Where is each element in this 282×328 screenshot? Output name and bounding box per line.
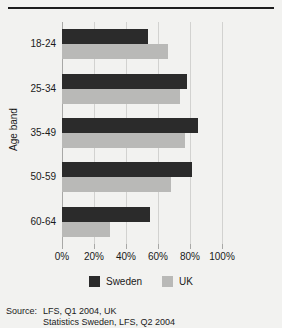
tick-40% <box>126 244 127 249</box>
plot-area: 0%20%40%60%80%100% <box>62 22 222 244</box>
legend-swatch-icon <box>89 276 100 287</box>
x-tick-label: 100% <box>202 251 242 262</box>
chart-legend: SwedenUK <box>0 276 282 287</box>
tick-60% <box>158 244 159 249</box>
bar-group <box>62 207 222 237</box>
source-note: Source: LFS, Q1 2004, UKStatistics Swede… <box>6 306 175 328</box>
bar <box>62 162 192 177</box>
tick-80% <box>190 244 191 249</box>
source-line: LFS, Q1 2004, UK <box>43 306 175 317</box>
y-tick-label: 18-24 <box>6 38 56 49</box>
bar <box>62 118 198 133</box>
tick-20% <box>94 244 95 249</box>
bar <box>62 29 148 44</box>
legend-item: Sweden <box>89 276 142 287</box>
tick-0% <box>62 244 63 249</box>
source-line: Statistics Sweden, LFS, Q2 2004 <box>43 317 175 328</box>
bar <box>62 133 185 148</box>
y-tick-label: 35-49 <box>6 127 56 138</box>
bar <box>62 44 168 59</box>
source-label: Source: <box>6 306 37 328</box>
y-tick-label: 60-64 <box>6 216 56 227</box>
bar <box>62 207 150 222</box>
y-axis-category-labels: 18-2425-3435-4950-5960-64 <box>0 22 56 244</box>
gridline-100% <box>222 22 223 244</box>
bar <box>62 177 171 192</box>
y-tick-label: 25-34 <box>6 83 56 94</box>
bar-chart: Age band 18-2425-3435-4950-5960-64 0%20%… <box>0 18 282 250</box>
bar-group <box>62 29 222 59</box>
y-tick-label: 50-59 <box>6 171 56 182</box>
legend-label: UK <box>179 276 193 287</box>
bar-group <box>62 74 222 104</box>
source-lines: LFS, Q1 2004, UKStatistics Sweden, LFS, … <box>43 306 175 328</box>
legend-label: Sweden <box>106 276 142 287</box>
top-divider-rule <box>8 7 274 9</box>
bar <box>62 222 110 237</box>
bar-group <box>62 162 222 192</box>
bar <box>62 89 180 104</box>
legend-item: UK <box>162 276 193 287</box>
tick-100% <box>222 244 223 249</box>
bar <box>62 74 187 89</box>
bar-group <box>62 118 222 148</box>
legend-swatch-icon <box>162 276 173 287</box>
